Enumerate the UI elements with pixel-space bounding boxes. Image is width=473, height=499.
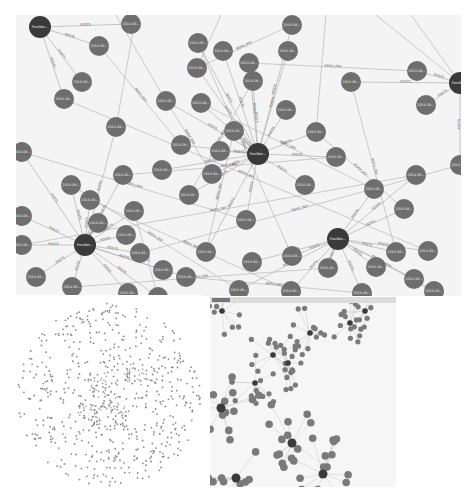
graph-node[interactable]: 2014-08...: [16, 235, 32, 255]
graph-node[interactable]: [332, 334, 337, 339]
graph-node[interactable]: 2014-08...: [202, 164, 222, 184]
graph-node[interactable]: 2014-08...: [341, 72, 361, 92]
graph-node[interactable]: [230, 407, 238, 415]
graph-node[interactable]: [255, 391, 263, 399]
graph-node[interactable]: 2014-08...: [171, 135, 191, 155]
graph-node[interactable]: [283, 387, 288, 392]
graph-node[interactable]: 2014-08...: [89, 36, 109, 56]
graph-node[interactable]: [296, 306, 301, 311]
hub-node[interactable]: [270, 352, 276, 358]
graph-node[interactable]: [230, 325, 235, 330]
graph-node[interactable]: 2014-08...: [16, 142, 32, 162]
graph-node[interactable]: [314, 486, 322, 488]
graph-node[interactable]: 2014-08...: [54, 89, 74, 109]
edge[interactable]: [316, 15, 326, 132]
graph-node[interactable]: 2014-08...: [72, 72, 92, 92]
hub-node[interactable]: [285, 360, 291, 366]
hub-node[interactable]: [219, 308, 225, 314]
graph-node[interactable]: [255, 369, 260, 374]
graph-node[interactable]: 2014-08...: [407, 61, 427, 81]
graph-node[interactable]: [293, 347, 298, 352]
graph-node[interactable]: [322, 452, 330, 460]
graph-node[interactable]: [283, 367, 288, 372]
graph-node[interactable]: [210, 391, 217, 399]
graph-overview-clusters[interactable]: [210, 297, 396, 487]
graph-node[interactable]: 2014-08...: [394, 199, 414, 219]
graph-node[interactable]: [357, 333, 362, 338]
graph-node[interactable]: [365, 316, 370, 321]
graph-node[interactable]: [354, 317, 359, 322]
graph-node[interactable]: [218, 474, 226, 482]
graph-node[interactable]: [226, 436, 234, 444]
graph-node[interactable]: [313, 326, 318, 331]
graph-node[interactable]: [249, 362, 254, 367]
graph-node[interactable]: [290, 354, 295, 359]
graph-node[interactable]: [249, 396, 257, 404]
graph-node[interactable]: 2014-08...: [282, 15, 302, 35]
graph-node[interactable]: [210, 304, 212, 309]
graph-node[interactable]: 2014-08...: [176, 267, 196, 287]
graph-node[interactable]: 2014-08...: [364, 179, 384, 199]
graph-node[interactable]: [288, 455, 296, 463]
hub-node[interactable]: [288, 439, 297, 448]
graph-node[interactable]: 2014-08...: [282, 246, 302, 266]
graph-node[interactable]: 2014-08...: [352, 283, 372, 296]
graph-node[interactable]: 2014-08...: [153, 260, 173, 280]
graph-node[interactable]: [274, 345, 279, 350]
graph-node[interactable]: [314, 335, 319, 340]
graph-node[interactable]: [233, 398, 238, 403]
graph-node[interactable]: [236, 324, 241, 329]
graph-node[interactable]: 2014-08...: [210, 141, 230, 161]
hub-node[interactable]: PostNat...: [247, 143, 269, 165]
graph-node[interactable]: [284, 431, 292, 439]
graph-node[interactable]: [212, 310, 217, 315]
graph-node[interactable]: 2014-08...: [130, 243, 150, 263]
hub-node[interactable]: [362, 308, 368, 314]
graph-node[interactable]: [368, 305, 373, 310]
graph-node[interactable]: [288, 334, 293, 339]
hub-node[interactable]: [307, 330, 313, 336]
graph-node[interactable]: [225, 427, 233, 435]
hub-node[interactable]: [232, 474, 241, 483]
graph-node[interactable]: [228, 373, 236, 381]
graph-node[interactable]: 2014-08...: [386, 242, 406, 262]
graph-node[interactable]: [280, 464, 288, 472]
graph-node[interactable]: [258, 378, 263, 383]
graph-node[interactable]: 2014-08...: [243, 71, 263, 91]
graph-node[interactable]: [295, 339, 300, 344]
graph-node[interactable]: [271, 371, 276, 376]
hub-node[interactable]: PostNat...: [74, 234, 96, 256]
graph-node[interactable]: [266, 391, 271, 396]
graph-node[interactable]: 2014-08...: [278, 41, 298, 61]
graph-node[interactable]: 2014-08...: [318, 258, 338, 278]
graph-node[interactable]: [265, 421, 273, 429]
graph-canvas-main[interactable]: POSTSREPLY_REFPOSTSPOSTSPOSTSREPLY_REFPO…: [16, 15, 461, 296]
graph-node[interactable]: [307, 419, 315, 427]
graph-node[interactable]: 2014-08...: [191, 93, 211, 113]
graph-node[interactable]: 2014-08...: [61, 175, 81, 195]
graph-node[interactable]: 2014-08...: [306, 122, 326, 142]
graph-node[interactable]: [282, 347, 287, 352]
graph-node[interactable]: 2014-08...: [416, 95, 436, 115]
graph-node[interactable]: 2014-08...: [88, 213, 108, 233]
graph-node[interactable]: [210, 426, 214, 434]
hub-node[interactable]: [252, 380, 258, 386]
graph-node[interactable]: 2014-08...: [121, 15, 141, 34]
graph-node[interactable]: [338, 323, 343, 328]
graph-node[interactable]: 2014-08...: [236, 210, 256, 230]
graph-node[interactable]: [303, 411, 311, 419]
graph-node[interactable]: 2014-08...: [187, 58, 207, 78]
graph-node[interactable]: [253, 353, 258, 358]
graph-node[interactable]: 2014-08...: [276, 100, 296, 120]
hub-node[interactable]: PostNat...: [29, 16, 51, 38]
graph-node[interactable]: [276, 450, 284, 458]
graph-node[interactable]: [298, 360, 303, 365]
graph-node[interactable]: [302, 306, 307, 311]
graph-node[interactable]: [290, 367, 295, 372]
graph-node[interactable]: 2014-08...: [418, 241, 438, 261]
graph-node[interactable]: [309, 434, 317, 442]
graph-node[interactable]: [318, 330, 323, 335]
graph-node[interactable]: [355, 339, 360, 344]
graph-node[interactable]: [293, 382, 298, 387]
graph-node[interactable]: 2014-08...: [196, 242, 216, 262]
